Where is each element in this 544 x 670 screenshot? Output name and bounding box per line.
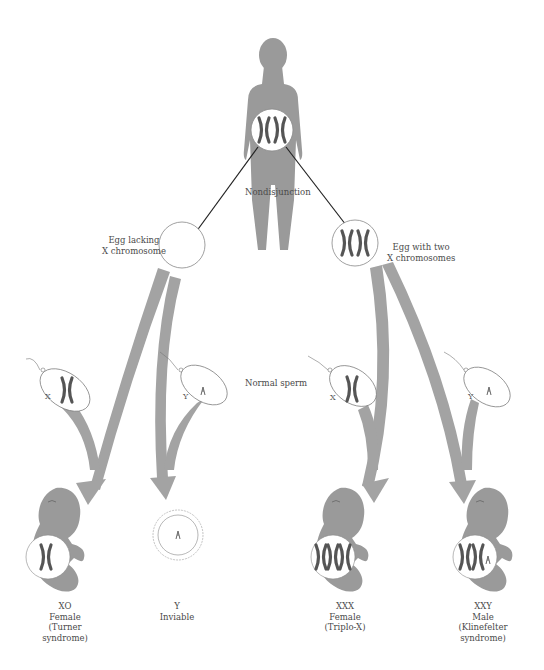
fetus-xo bbox=[26, 488, 84, 592]
line-to-egg-two-x bbox=[286, 147, 346, 225]
sperm-x-right bbox=[308, 356, 384, 415]
fetus-xxy bbox=[453, 488, 512, 592]
egg-two-x-label: Egg with two X chromosomes bbox=[387, 242, 455, 263]
normal-sperm-label: Normal sperm bbox=[245, 378, 307, 389]
sperm-y-right-label: Y bbox=[468, 392, 473, 401]
egg-lacking-label: Egg lacking X chromosome bbox=[102, 235, 166, 256]
nondisjunction-diagram: Nondisjunction Egg lacking X chromosome … bbox=[0, 0, 544, 670]
mother-figure bbox=[244, 38, 303, 250]
sperm-x-left bbox=[26, 358, 98, 420]
outcome-xo: XO Female (Turner syndrome) bbox=[30, 601, 100, 643]
outcome-xxy: XXY Male (Klinefelter syndrome) bbox=[450, 601, 516, 643]
sperm-y-right bbox=[444, 352, 517, 415]
sperm-y-left-label: Y bbox=[183, 392, 188, 401]
egg-two-x bbox=[332, 220, 378, 266]
outcome-xxx: XXX Female (Triplo-X) bbox=[315, 601, 375, 633]
inviable-y-zygote bbox=[153, 510, 203, 560]
outcome-y: Y Inviable bbox=[152, 601, 202, 622]
diagram-canvas bbox=[0, 0, 544, 670]
fetus-xxx bbox=[311, 488, 368, 592]
nondisjunction-label: Nondisjunction bbox=[245, 187, 311, 198]
sperm-x-left-label: X bbox=[45, 392, 51, 401]
sperm-x-right-label: X bbox=[330, 393, 336, 402]
